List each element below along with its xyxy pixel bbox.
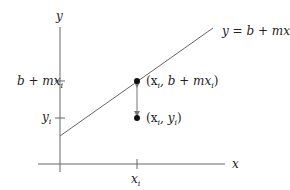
observed-point-label: (xi, yi): [146, 111, 182, 127]
line-equation-label: y = b + mx: [221, 24, 290, 38]
predicted-point-label: (xi, b + mxi): [146, 74, 218, 90]
y-tick-upper-label: b + mxi: [17, 74, 64, 90]
regression-diagram: y x y = b + mx b + mxi yi xi (xi, b + mx…: [0, 0, 290, 190]
predicted-point: [134, 78, 140, 84]
y-axis-label: y: [55, 9, 63, 23]
y-tick-lower-label: yi: [41, 110, 52, 126]
x-tick-label: xi: [131, 172, 141, 188]
observed-point: [134, 115, 140, 121]
x-axis-label: x: [232, 157, 239, 171]
